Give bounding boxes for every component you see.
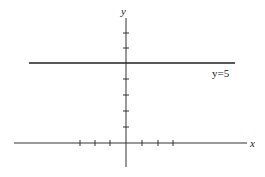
x-axis-label: x <box>249 137 255 149</box>
coordinate-plane: y x y=5 <box>0 0 265 177</box>
y-axis-label: y <box>120 5 126 17</box>
line-label: y=5 <box>212 67 230 79</box>
